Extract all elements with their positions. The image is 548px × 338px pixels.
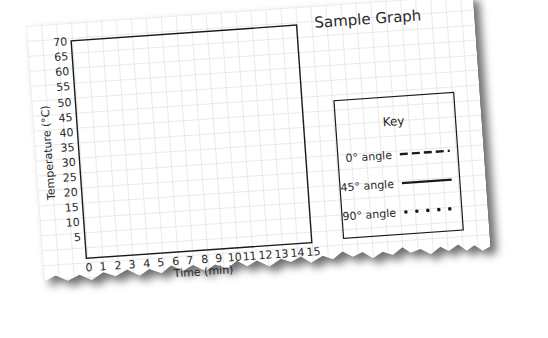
x-tick: 4: [143, 257, 151, 270]
y-tick: 5: [73, 231, 81, 244]
paper-sheet: 70 65 60 55 50 45 40 35 30 25 20 15 10 5…: [26, 0, 492, 295]
graph-paper: 70 65 60 55 50 45 40 35 30 25 20 15 10 5…: [26, 0, 492, 295]
legend: Key 0° angle 45° angle 90° angle: [334, 92, 463, 238]
y-tick: 70: [53, 35, 68, 49]
x-tick: 13: [274, 247, 289, 261]
x-tick: 11: [242, 249, 257, 263]
y-tick: 45: [58, 111, 73, 125]
legend-title: Key: [382, 114, 405, 129]
y-tick: 55: [56, 80, 71, 94]
x-tick: 5: [157, 256, 165, 269]
y-tick: 50: [57, 96, 72, 110]
x-tick: 3: [128, 258, 136, 271]
y-tick: 30: [61, 156, 76, 170]
x-axis-label: Time (min): [172, 263, 234, 280]
x-tick: 14: [290, 246, 305, 260]
y-tick: 10: [65, 216, 80, 230]
y-tick: 40: [59, 126, 74, 140]
x-tick: 1: [99, 260, 107, 273]
y-tick: 20: [63, 186, 78, 200]
y-tick: 35: [60, 141, 75, 155]
y-tick: 15: [64, 201, 79, 215]
y-tick: 25: [62, 171, 77, 185]
x-tick: 0: [85, 261, 93, 274]
x-tick: 15: [306, 245, 321, 259]
x-tick: 12: [258, 248, 273, 262]
y-tick: 60: [55, 65, 70, 79]
y-tick: 65: [54, 50, 69, 64]
x-tick: 2: [114, 259, 122, 272]
